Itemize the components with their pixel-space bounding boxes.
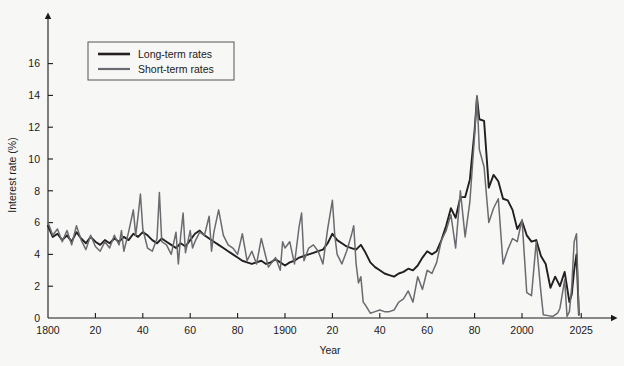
x-axis-tick-label: 20 [90,324,102,336]
chart-legend: Long-term ratesShort-term rates [88,42,234,80]
x-axis-tick-label: 1900 [273,324,297,336]
y-axis-tick-label: 14 [28,89,40,101]
y-axis-tick-label: 0 [34,312,40,324]
x-axis-tick-label: 2025 [570,324,594,336]
x-axis-tick-label: 60 [421,324,433,336]
chart-canvas: 0246810121416180020406080190020406080200… [0,0,624,366]
x-axis-tick-label: 80 [232,324,244,336]
y-axis-tick-label: 4 [34,248,40,260]
x-axis-tick-label: 40 [137,324,149,336]
legend-label-long-term: Long-term rates [138,48,212,60]
y-axis-tick-label: 8 [34,185,40,197]
x-axis-tick-label: 60 [184,324,196,336]
x-axis-tick-label: 20 [327,324,339,336]
x-axis-tick-label: 40 [374,324,386,336]
interest-rate-chart-figure: 0246810121416180020406080190020406080200… [0,0,624,366]
x-axis-tick-label: 1800 [36,324,60,336]
y-axis-tick-label: 16 [28,57,40,69]
x-axis-tick-label: 2000 [510,324,534,336]
y-axis-tick-label: 10 [28,153,40,165]
y-axis-tick-label: 6 [34,216,40,228]
legend-label-short-term: Short-term rates [138,63,214,75]
y-axis-title: Interest rate (%) [6,137,18,212]
series-line-short-term-rates [48,95,579,316]
data-series-group [48,95,579,316]
x-axis-title: Year [319,344,341,356]
x-axis-tick-label: 80 [469,324,481,336]
y-axis-tick-label: 12 [28,121,40,133]
y-axis-tick-label: 2 [34,280,40,292]
